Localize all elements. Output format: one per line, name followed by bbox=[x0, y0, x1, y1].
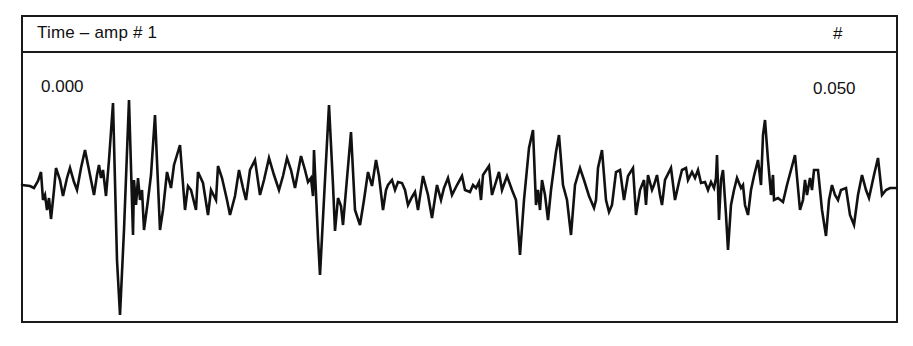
waveform-plot bbox=[0, 0, 913, 346]
amplitude-waveform bbox=[22, 100, 896, 315]
